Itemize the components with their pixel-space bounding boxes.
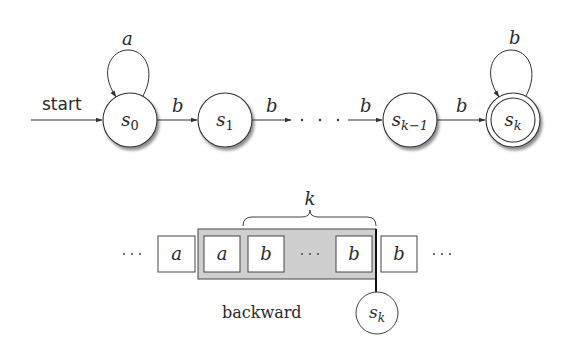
- self-loop-sk: b: [491, 27, 532, 97]
- tape-cell: a: [204, 236, 240, 272]
- start-label: start: [42, 94, 82, 114]
- state-s1: s1: [198, 93, 252, 147]
- tape-cell: b: [381, 236, 417, 272]
- transition-sk-1-sk: b: [437, 95, 485, 120]
- tape-right-ellipsis: [433, 253, 451, 255]
- tape-left-ellipsis: [123, 253, 141, 255]
- svg-text:a: a: [217, 243, 228, 264]
- window-brace: k: [243, 188, 376, 226]
- automaton: start a s0 b s1 b: [31, 27, 540, 147]
- loop-arrow-s0: [108, 50, 149, 97]
- state-s0: s0: [103, 93, 157, 147]
- diagram-canvas: start a s0 b s1 b: [0, 0, 568, 347]
- loop-arrow-sk: [491, 50, 532, 97]
- state-sk: sk: [486, 93, 540, 147]
- svg-text:a: a: [171, 243, 182, 264]
- label-s0-s1: b: [172, 95, 184, 116]
- backward-caption: backward: [222, 303, 302, 322]
- tape-cell: b: [248, 236, 284, 272]
- label-s1-ellipsis: b: [266, 95, 278, 116]
- svg-text:b: b: [348, 243, 360, 264]
- transition-s1-ellipsis: b: [252, 95, 291, 120]
- transition-ellipsis-sk-1: b: [348, 95, 382, 120]
- window-length-label: k: [305, 188, 316, 209]
- tape: a a b b b: [123, 188, 451, 334]
- self-loop-s0: a: [108, 28, 149, 97]
- loop-label-s0: a: [122, 28, 133, 49]
- tape-cell: b: [336, 236, 372, 272]
- state-sk-minus-1: sk−1: [383, 93, 437, 147]
- automaton-ellipsis: [301, 119, 339, 121]
- svg-text:b: b: [393, 243, 405, 264]
- label-ellipsis-sk-1: b: [360, 95, 372, 116]
- head-state: sk: [356, 292, 398, 334]
- loop-label-sk: b: [509, 27, 521, 48]
- tape-cell: a: [158, 236, 195, 272]
- transition-s0-s1: b: [157, 95, 197, 120]
- start-transition: start: [31, 94, 102, 120]
- svg-text:b: b: [260, 243, 272, 264]
- label-sk-1-sk: b: [456, 95, 468, 116]
- brace-icon: [243, 210, 376, 226]
